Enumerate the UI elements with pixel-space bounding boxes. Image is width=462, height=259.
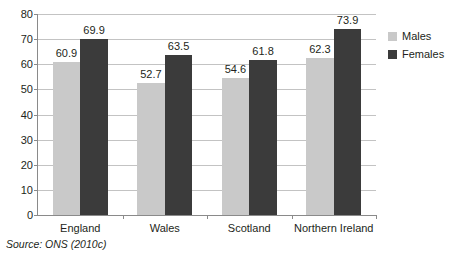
y-axis-tick-label: 20: [21, 159, 33, 170]
legend-label: Males: [402, 31, 431, 42]
x-axis-tick-mark: [207, 215, 208, 219]
bar-value-label: 52.7: [140, 69, 161, 80]
bar-value-label: 62.3: [309, 44, 330, 55]
bar-value-label: 73.9: [337, 15, 358, 26]
bar-males[interactable]: 62.3: [306, 58, 334, 215]
y-axis-tick-label: 40: [21, 109, 33, 120]
x-axis-tick-mark: [123, 215, 124, 219]
legend-swatch-icon: [388, 32, 397, 41]
bar-males[interactable]: 54.6: [222, 78, 250, 215]
source-note: Source: ONS (2010c): [6, 238, 106, 250]
bar-group: 52.763.5: [137, 14, 192, 215]
legend-swatch-icon: [388, 50, 397, 59]
legend-item-females[interactable]: Females: [388, 45, 462, 63]
bar-value-label: 54.6: [225, 64, 246, 75]
bar-value-label: 60.9: [56, 48, 77, 59]
y-axis-tick-label: 10: [21, 184, 33, 195]
bar-males[interactable]: 52.7: [137, 83, 165, 215]
bar-males[interactable]: 60.9: [53, 62, 81, 215]
y-axis-tick-label: 30: [21, 134, 33, 145]
x-axis-tick-mark: [292, 215, 293, 219]
bar-group: 54.661.8: [222, 14, 277, 215]
y-axis-tick-label: 70: [21, 34, 33, 45]
bar-females[interactable]: 69.9: [80, 39, 108, 215]
bar-group: 62.373.9: [306, 14, 361, 215]
y-axis-tick-label: 60: [21, 59, 33, 70]
bar-value-label: 61.8: [252, 46, 273, 57]
bar-series-container: 60.969.952.763.554.661.862.373.9: [38, 14, 376, 215]
y-axis-tick-label: 50: [21, 84, 33, 95]
x-axis-category-label: Northern Ireland: [294, 222, 374, 234]
x-axis-category-label: Scotland: [228, 222, 271, 234]
bar-value-label: 63.5: [168, 41, 189, 52]
bar-females[interactable]: 73.9: [334, 29, 362, 215]
bar-value-label: 69.9: [83, 25, 104, 36]
x-axis-category-label: Wales: [150, 222, 180, 234]
x-axis-category-label: England: [60, 222, 100, 234]
legend-item-males[interactable]: Males: [388, 27, 462, 45]
legend-label: Females: [402, 49, 444, 60]
bar-females[interactable]: 63.5: [165, 55, 193, 215]
bar-group: 60.969.9: [53, 14, 108, 215]
y-axis-tick-label: 0: [27, 210, 33, 221]
x-axis-tick-mark: [376, 215, 377, 219]
bar-females[interactable]: 61.8: [249, 60, 277, 215]
plot-area: 01020304050607080 60.969.952.763.554.661…: [37, 14, 376, 216]
y-axis-tick-mark: [34, 215, 38, 216]
bar-chart-figure: 01020304050607080 60.969.952.763.554.661…: [0, 0, 462, 259]
y-axis-tick-label: 80: [21, 9, 33, 20]
chart-legend: MalesFemales: [388, 27, 462, 63]
